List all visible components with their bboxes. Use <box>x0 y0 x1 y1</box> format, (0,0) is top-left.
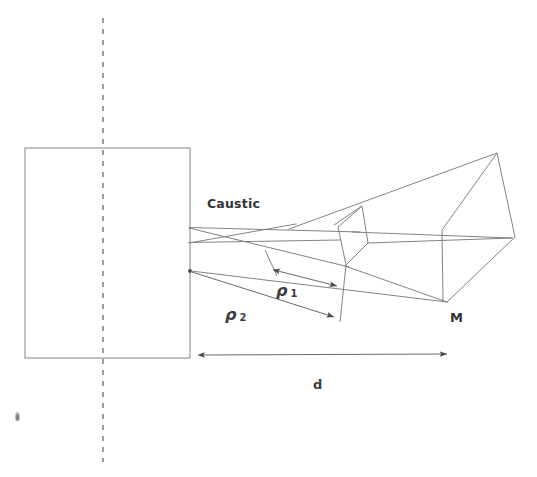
rho1-subscript: 1 <box>287 288 297 299</box>
mirror-edge-midupper-to-rayapex <box>334 206 362 225</box>
rho1-symbol: ρ <box>276 281 287 300</box>
mirror-edge-midleft-midbottom <box>338 227 346 265</box>
ray-upper-axis <box>352 232 512 238</box>
rho2-label: ρ2 <box>225 305 246 324</box>
scan-smudge-artifact <box>15 412 20 421</box>
ray-crossing-upper-ext <box>345 266 447 302</box>
ray-crossing-upper <box>189 228 349 267</box>
mirror-edge-apex-right <box>497 153 515 237</box>
rho2-subscript: 2 <box>236 312 246 323</box>
caustic-ray-bundle <box>189 153 512 302</box>
tick-rho1-upper <box>265 250 277 276</box>
rho2-symbol: ρ <box>225 305 236 324</box>
ray-lower-axis <box>189 240 340 243</box>
ray-lower-long <box>191 271 447 302</box>
mirror-label: M <box>450 310 463 325</box>
ray-crossing-lower <box>189 224 296 243</box>
ray-to-apex <box>289 153 497 229</box>
dimension-line-rho2 <box>192 272 334 317</box>
caustic-label: Caustic <box>207 196 260 211</box>
mirror-edge-midlower-midbottom <box>346 243 368 265</box>
source-aperture-rectangle <box>25 148 190 358</box>
rho1-label: ρ1 <box>276 281 297 300</box>
distance-d-label: d <box>313 377 322 392</box>
mirror-edge-right-bottom <box>447 237 515 302</box>
dimension-line-d <box>199 354 447 355</box>
mirror-edge-midbottom-down <box>340 265 346 322</box>
mirror-edge-midupper-midleft <box>338 206 362 227</box>
rho2-origin-dot <box>188 269 192 273</box>
mirror-edge-apex-fronttop <box>442 153 497 230</box>
ray-lower-axis-ext <box>368 238 512 243</box>
mirror-edge-midupper-vert <box>362 206 368 243</box>
dimension-tick-marks <box>265 250 277 276</box>
figure-vector-canvas <box>0 0 537 477</box>
optics-ray-diagram-figure: Caustic M d ρ1 ρ2 <box>0 0 537 477</box>
